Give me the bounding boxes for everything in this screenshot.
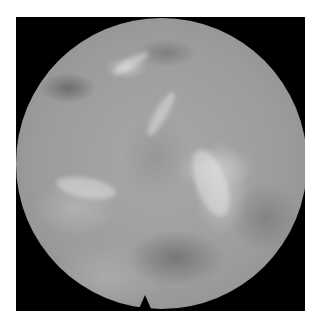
tissue-highlight xyxy=(111,49,151,78)
orientation-notch xyxy=(138,295,152,311)
tissue-highlight xyxy=(143,89,178,138)
tissue-highlight xyxy=(185,145,237,221)
tissue-highlight xyxy=(55,173,118,203)
image-frame xyxy=(16,17,305,311)
circular-endoscopic-view xyxy=(16,18,305,309)
